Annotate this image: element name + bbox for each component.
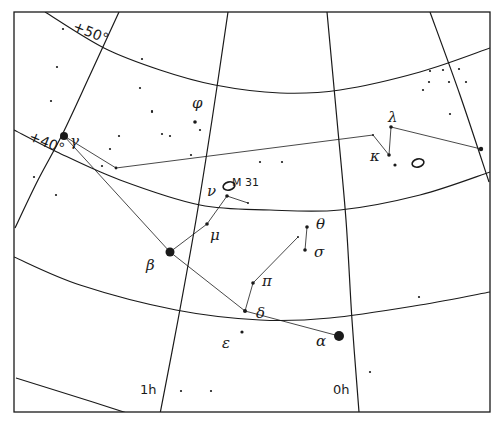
field-star <box>448 81 450 83</box>
star-label-alpha: α <box>316 332 326 350</box>
field-star <box>55 194 57 196</box>
star-mu <box>205 222 209 226</box>
star-beta <box>166 248 175 257</box>
field-star <box>151 110 153 112</box>
field-star <box>281 161 283 163</box>
field-star <box>180 390 182 392</box>
dec-label-50: +50° <box>71 18 111 47</box>
star-kappa <box>387 153 391 157</box>
field-star <box>428 81 430 83</box>
field-star <box>259 161 261 163</box>
field-star <box>418 296 420 298</box>
field-star <box>210 390 212 392</box>
star-delta <box>243 309 247 313</box>
star-label-kappa: κ <box>369 147 380 165</box>
constellation-segment <box>64 136 170 252</box>
star-label-gamma: γ <box>70 132 79 150</box>
star-label-theta: θ <box>316 215 325 233</box>
constellation-segment <box>227 196 248 203</box>
field-star <box>465 81 467 83</box>
field-star <box>190 154 192 156</box>
constellation-segment <box>170 224 207 252</box>
dec-line <box>14 257 490 321</box>
constellation-segment <box>389 127 391 155</box>
field-star <box>109 148 111 150</box>
galaxy-ngc <box>411 158 425 169</box>
ra-label-0h: 0h <box>333 382 350 397</box>
field-star <box>50 100 52 102</box>
field-star <box>199 129 201 131</box>
field-star <box>56 66 58 68</box>
star-nu-end <box>247 202 249 204</box>
star-theta <box>305 225 309 229</box>
star-alpha <box>334 331 344 341</box>
dec-line <box>14 130 490 211</box>
star-sigma <box>303 248 307 252</box>
star-label-epsilon: ε <box>222 334 230 352</box>
field-star <box>442 69 444 71</box>
field-star <box>169 135 171 137</box>
field-star <box>62 28 64 30</box>
field-star <box>429 70 431 72</box>
ra-line <box>327 12 359 412</box>
field-star <box>141 58 143 60</box>
star-label-phi: φ <box>192 94 203 112</box>
grid-labels: +50°+40°1h0hM 31 <box>27 18 350 397</box>
star-label-pi: π <box>261 272 273 290</box>
field-star <box>422 89 424 91</box>
constellation-segment <box>253 237 298 283</box>
field-star <box>449 113 451 115</box>
star-chart: αβγδεμνπθσφκλ +50°+40°1h0hM 31 <box>0 0 498 426</box>
ra-line <box>160 12 228 414</box>
star-label-lambda: λ <box>387 108 398 126</box>
field-star <box>161 133 163 135</box>
dec-line <box>45 12 490 93</box>
star-phi <box>193 120 197 124</box>
m31-label: M 31 <box>232 176 259 189</box>
dec-label-40: +40° <box>27 128 67 157</box>
star-epsilon <box>240 330 243 333</box>
star-pi-top <box>297 236 299 238</box>
constellation-segment <box>207 196 227 224</box>
star-kappa-comp <box>393 163 396 166</box>
field-star <box>369 371 371 373</box>
constellation-segment <box>245 283 253 311</box>
field-star <box>101 165 103 167</box>
star-iota <box>479 147 483 151</box>
ra-line <box>430 12 489 182</box>
coordinate-grid <box>14 12 490 414</box>
star-label-sigma: σ <box>314 243 325 261</box>
field-star <box>118 135 120 137</box>
constellation-segment <box>116 135 373 168</box>
star-label-mu: μ <box>210 226 220 244</box>
star-chart-canvas: αβγδεμνπθσφκλ +50°+40°1h0hM 31 <box>0 0 498 426</box>
dec-line <box>16 378 130 414</box>
constellation-segment <box>305 227 307 250</box>
star-pi <box>251 281 255 285</box>
star-tail <box>372 134 374 136</box>
field-star <box>139 87 141 89</box>
star-chain1 <box>115 167 118 170</box>
star-label-delta: δ <box>256 304 265 322</box>
star-label-nu: ν <box>207 182 216 200</box>
ra-label-1h: 1h <box>140 382 157 397</box>
named-stars: αβγδεμνπθσφκλ <box>60 94 483 352</box>
constellation-segment <box>391 127 481 149</box>
field-star <box>458 68 460 70</box>
star-label-beta: β <box>145 256 155 274</box>
star-nu <box>225 194 229 198</box>
field-star <box>33 176 35 178</box>
